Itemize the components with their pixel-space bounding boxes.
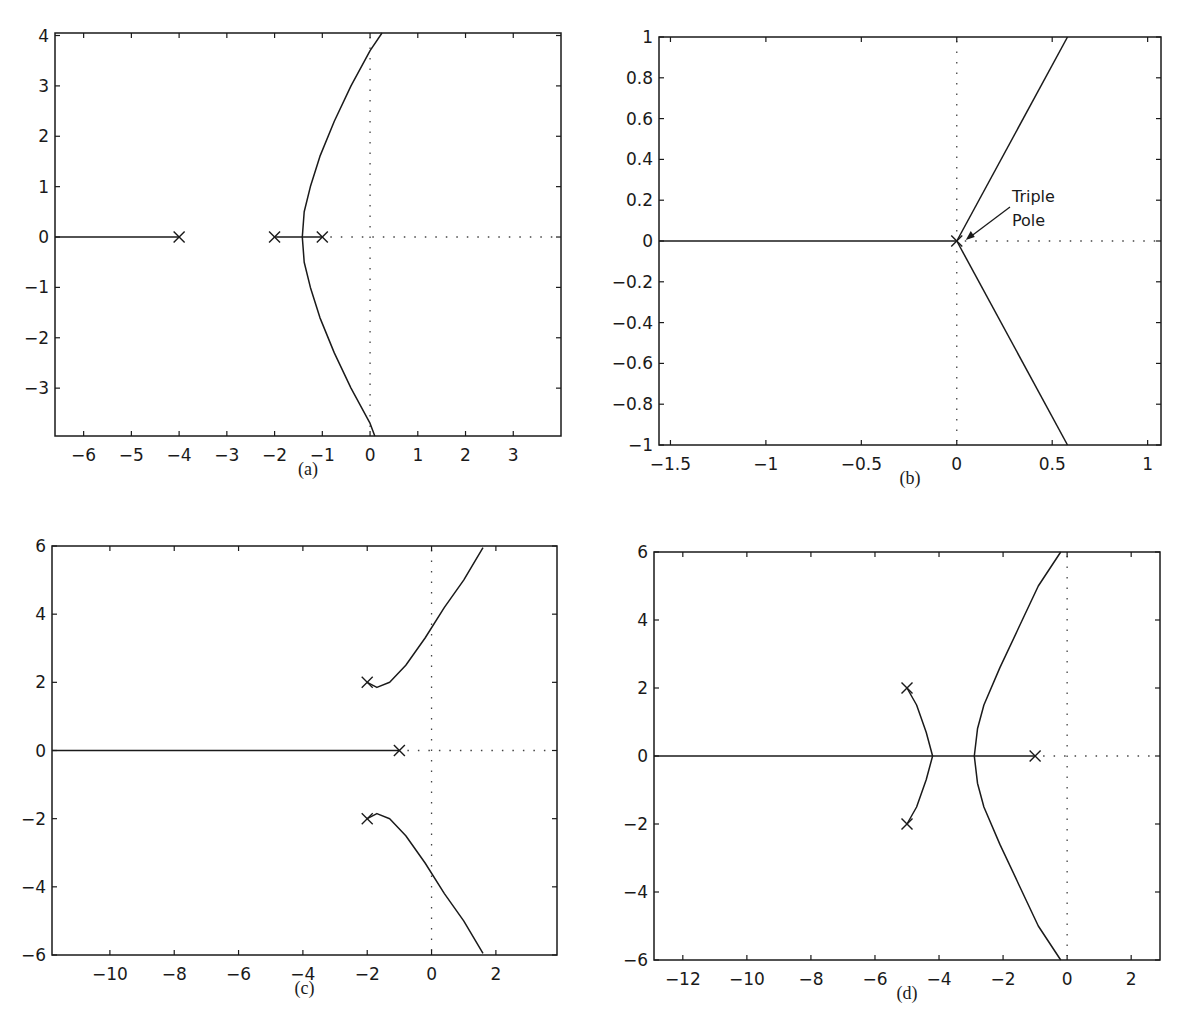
y-tick-label: 3 — [38, 76, 49, 96]
y-tick-label: 4 — [637, 610, 648, 630]
root-locus-plot-d: −12−10−8−6−4−202−6−4−20246(d) — [623, 542, 1160, 1004]
y-tick-label: −0.6 — [612, 353, 653, 373]
x-tick-label: 2 — [1126, 969, 1137, 989]
axis-ticks: −6−5−4−3−2−10123−3−2−101234 — [24, 26, 561, 465]
panel-caption: (c) — [295, 978, 315, 999]
x-tick-label: 2 — [490, 964, 501, 984]
y-tick-label: 6 — [35, 536, 46, 556]
panel-caption: (b) — [900, 468, 921, 489]
y-tick-label: −1 — [24, 277, 49, 297]
annotation-text: Triple — [1011, 187, 1055, 206]
plot-frame — [55, 33, 561, 436]
y-tick-label: 4 — [35, 604, 46, 624]
y-tick-label: −6 — [21, 945, 46, 965]
x-tick-label: −0.5 — [841, 454, 882, 474]
panel-caption: (d) — [897, 983, 918, 1004]
x-tick-label: −2 — [991, 969, 1016, 989]
y-tick-label: 2 — [35, 672, 46, 692]
x-tick-label: 0 — [426, 964, 437, 984]
y-tick-label: 0 — [642, 231, 653, 251]
x-tick-label: −10 — [729, 969, 765, 989]
y-tick-label: 0.8 — [626, 68, 653, 88]
x-tick-label: 3 — [508, 445, 519, 465]
y-tick-label: 1 — [38, 177, 49, 197]
locus-branches — [659, 37, 1068, 445]
x-tick-label: 0 — [951, 454, 962, 474]
x-tick-label: −2 — [355, 964, 380, 984]
axis-ticks: −1.5−1−0.500.51−1−0.8−0.6−0.4−0.200.20.4… — [612, 27, 1161, 474]
x-tick-label: −6 — [226, 964, 251, 984]
y-tick-label: 2 — [637, 678, 648, 698]
y-tick-label: −4 — [623, 882, 648, 902]
x-tick-label: −4 — [926, 969, 951, 989]
locus-branch — [367, 814, 483, 954]
locus-branch — [907, 756, 933, 824]
x-tick-label: −1.5 — [650, 454, 691, 474]
y-tick-label: −3 — [24, 378, 49, 398]
x-tick-label: 0 — [365, 445, 376, 465]
root-locus-plot-c: −10−8−6−4−202−6−4−20246(c) — [21, 536, 557, 999]
x-tick-label: −5 — [119, 445, 144, 465]
x-tick-label: −8 — [798, 969, 823, 989]
y-tick-label: −2 — [21, 809, 46, 829]
locus-branch — [302, 237, 375, 436]
x-tick-label: −8 — [162, 964, 187, 984]
y-tick-label: −0.4 — [612, 313, 653, 333]
x-tick-label: −6 — [71, 445, 96, 465]
pole-x-marker — [362, 813, 373, 824]
root-locus-figure: −6−5−4−3−2−10123−3−2−101234(a)−1.5−1−0.5… — [0, 0, 1181, 1033]
origin-axes-dotted — [407, 550, 553, 951]
x-tick-label: 1 — [412, 445, 423, 465]
y-tick-label: 2 — [38, 126, 49, 146]
locus-branch — [974, 552, 1060, 756]
y-tick-label: −1 — [628, 435, 653, 455]
locus-branch — [367, 548, 483, 688]
x-tick-label: −3 — [214, 445, 239, 465]
x-tick-label: −12 — [665, 969, 701, 989]
arrow-head-icon — [966, 231, 975, 240]
x-tick-label: −10 — [92, 964, 128, 984]
x-tick-label: 0 — [1062, 969, 1073, 989]
x-tick-label: 1 — [1142, 454, 1153, 474]
y-tick-label: 6 — [637, 542, 648, 562]
axis-ticks: −12−10−8−6−4−202−6−4−20246 — [623, 542, 1160, 989]
root-locus-plot-b: −1.5−1−0.500.51−1−0.8−0.6−0.4−0.200.20.4… — [612, 27, 1161, 489]
origin-axes-dotted — [957, 41, 1157, 441]
annotation-text: Pole — [1012, 211, 1045, 230]
x-tick-label: 2 — [460, 445, 471, 465]
pole-x-marker — [902, 683, 913, 694]
locus-branches — [55, 33, 382, 436]
y-tick-label: −6 — [623, 950, 648, 970]
x-tick-label: −1 — [753, 454, 778, 474]
y-tick-label: 0 — [637, 746, 648, 766]
y-tick-label: −0.2 — [612, 272, 653, 292]
y-tick-label: −0.8 — [612, 394, 653, 414]
annotation-arrow — [969, 207, 1010, 238]
y-tick-label: 0 — [35, 741, 46, 761]
locus-branch — [907, 688, 933, 756]
triple-pole-annotation: TriplePole — [966, 187, 1055, 240]
origin-axes-dotted — [330, 37, 557, 432]
y-tick-label: 0.4 — [626, 149, 653, 169]
y-tick-label: 1 — [642, 27, 653, 47]
y-tick-label: 4 — [38, 26, 49, 46]
origin-axes-dotted — [1043, 556, 1156, 956]
x-tick-label: 0.5 — [1039, 454, 1066, 474]
y-tick-label: 0.2 — [626, 190, 653, 210]
y-tick-label: 0.6 — [626, 109, 653, 129]
locus-branches — [654, 552, 1061, 960]
axis-ticks: −10−8−6−4−202−6−4−20246 — [21, 536, 557, 984]
pole-x-marker — [362, 677, 373, 688]
locus-branch — [974, 756, 1060, 960]
x-tick-label: −2 — [262, 445, 287, 465]
root-locus-plot-a: −6−5−4−3−2−10123−3−2−101234(a) — [24, 26, 561, 480]
locus-branch — [957, 241, 1068, 445]
panel-caption: (a) — [298, 459, 318, 480]
y-tick-label: 0 — [38, 227, 49, 247]
y-tick-label: −4 — [21, 877, 46, 897]
y-tick-label: −2 — [623, 814, 648, 834]
x-tick-label: −6 — [862, 969, 887, 989]
y-tick-label: −2 — [24, 328, 49, 348]
x-tick-label: −4 — [167, 445, 192, 465]
pole-x-marker — [902, 819, 913, 830]
